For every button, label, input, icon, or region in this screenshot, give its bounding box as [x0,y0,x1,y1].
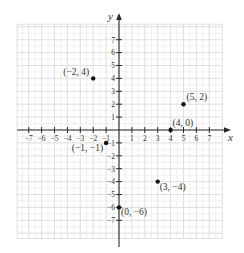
y-tick-label: −4 [107,177,115,186]
data-point-label: (5, 2) [187,92,208,103]
x-tick-label: 1 [130,134,134,143]
y-tick-label: −2 [107,152,115,161]
y-axis-label: y [107,10,113,22]
x-tick-label: 5 [182,134,186,143]
x-tick-label: 2 [143,134,147,143]
data-point-marker [181,102,185,106]
x-tick-label: −4 [63,134,71,143]
y-tick-label: 2 [111,100,115,109]
data-point-label: (−1, −1) [72,143,103,154]
x-tick-label: 3 [156,134,160,143]
x-tick-label: −2 [89,134,97,143]
x-tick-label: 7 [207,134,211,143]
x-tick-label: 6 [195,134,199,143]
data-point-label: (−2, 4) [63,67,89,78]
x-axis-label: x [227,131,233,143]
x-tick-label: −6 [38,134,46,143]
data-point-marker [104,141,108,145]
x-tick-label: −3 [76,134,84,143]
x-tick-label: −7 [25,134,33,143]
coordinate-plane: xy −7−6−5−4−3−2−11234567−7−6−5−4−3−2−112… [0,0,244,253]
y-tick-label: −6 [107,203,115,212]
y-tick-label: 7 [111,36,115,45]
data-point-label: (0, −6) [121,207,147,218]
y-tick-label: −7 [107,216,115,225]
y-tick-label: 3 [111,87,115,96]
y-tick-label: 1 [111,113,115,122]
y-tick-label: −3 [107,165,115,174]
data-point-marker [91,76,95,80]
y-tick-label: 6 [111,48,115,57]
y-axis-arrow-icon [116,13,122,20]
data-point-label: (3, −4) [160,182,186,193]
x-tick-label: 4 [169,134,173,143]
y-tick-label: −5 [107,190,115,199]
y-tick-label: 4 [111,74,115,83]
data-point-label: (4, 0) [173,118,194,129]
data-point-marker [168,128,172,132]
x-tick-label: −5 [51,134,59,143]
y-tick-label: 5 [111,61,115,70]
